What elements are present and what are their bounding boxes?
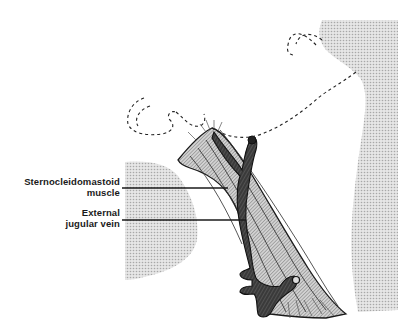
label-sternocleidomastoid-muscle: Sternocleidomastoid muscle: [20, 176, 120, 198]
diagram-canvas: Sternocleidomastoid muscle External jugu…: [0, 0, 417, 332]
shoulder-region: [125, 162, 198, 280]
label-ejv-line1: External: [20, 207, 120, 218]
neck-illustration: [0, 0, 417, 332]
label-scm-line2: muscle: [20, 187, 120, 198]
vein-bottom-bulb: [293, 277, 300, 284]
dashed-contours: [128, 34, 356, 138]
posterior-region: [319, 20, 398, 312]
label-ejv-line2: jugular vein: [20, 218, 120, 229]
label-scm-line1: Sternocleidomastoid: [20, 176, 120, 187]
label-external-jugular-vein: External jugular vein: [20, 207, 120, 229]
